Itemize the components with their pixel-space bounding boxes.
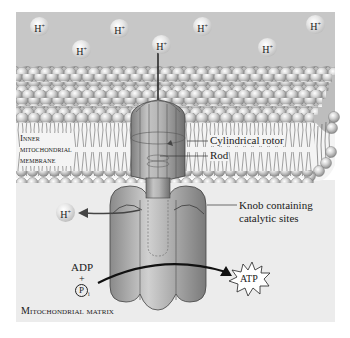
proton-ion-exiting: H+ xyxy=(56,203,75,222)
diagram-graphics xyxy=(0,0,350,338)
intermembrane-space xyxy=(16,12,335,72)
knob-label: Knob containing catalytic sites xyxy=(239,199,313,225)
membrane-label: Inner mitochondrial membrane xyxy=(20,133,72,166)
phosphate-circle: P xyxy=(75,284,88,297)
proton-ion: H+ xyxy=(258,38,277,57)
proton-ion: H+ xyxy=(72,40,91,59)
adp-label: ADP xyxy=(71,262,93,273)
cylindrical-rotor-shape xyxy=(131,100,185,182)
proton-ion: H+ xyxy=(193,17,212,36)
rod-label: Rod xyxy=(210,150,228,161)
atp-label: ATP xyxy=(240,274,258,284)
matrix-label: Mitochondrial matrix xyxy=(21,306,114,316)
proton-ion: H+ xyxy=(152,35,171,54)
phosphate-label: Pi xyxy=(75,284,90,297)
plus-sign: + xyxy=(79,274,85,284)
catalytic-knob-shape xyxy=(110,178,206,310)
proton-ion: H+ xyxy=(306,15,325,34)
rotor-label: Cylindrical rotor xyxy=(210,135,284,146)
proton-ion: H+ xyxy=(30,17,49,36)
atp-synthase-diagram: H+ H+ H+ H+ H+ H+ H+ H+ Inner mitochondr… xyxy=(0,0,350,338)
proton-ion: H+ xyxy=(110,19,129,38)
